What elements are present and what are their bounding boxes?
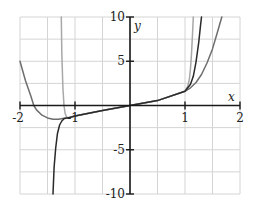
curve-light-gray xyxy=(61,17,193,117)
x-tick-label: -2 xyxy=(12,111,24,125)
x-axis-label: x xyxy=(228,90,235,104)
y-tick-label: 10 xyxy=(110,10,125,24)
y-tick-label: -5 xyxy=(113,143,125,157)
x-tick-label: 2 xyxy=(236,111,244,125)
y-axis-label: y xyxy=(133,19,141,33)
function-plot: -2-112105-5-10 x y xyxy=(0,0,258,206)
y-tick-label: 5 xyxy=(117,54,125,68)
x-tick-label: 1 xyxy=(181,111,189,125)
x-tick-label: -1 xyxy=(67,111,79,125)
y-tick-label: -10 xyxy=(106,187,125,201)
